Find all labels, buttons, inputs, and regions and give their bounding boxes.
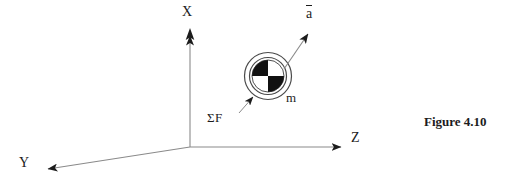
mass-body-symbol — [245, 53, 292, 100]
figure-4-10-container: X Y Z a m ΣF Figure 4.10 — [0, 0, 513, 184]
coordinate-system-diagram — [0, 0, 513, 184]
acceleration-vector — [284, 34, 308, 69]
axis-label-y: Y — [19, 156, 29, 170]
acceleration-vector-line — [284, 34, 308, 69]
axis-label-z: Z — [351, 131, 360, 145]
axis-lines — [48, 36, 341, 169]
net-force-label: ΣF — [207, 111, 223, 124]
axis-y-line — [48, 147, 190, 169]
net-force-leader-line — [239, 97, 253, 113]
mass-checkered-quadrants — [252, 60, 284, 92]
figure-caption: Figure 4.10 — [424, 114, 487, 130]
net-force-leader — [239, 97, 253, 113]
acceleration-label-text: a — [306, 5, 312, 21]
axis-label-x: X — [182, 5, 192, 19]
mass-label: m — [286, 91, 296, 104]
acceleration-vector-label: a — [306, 5, 312, 21]
